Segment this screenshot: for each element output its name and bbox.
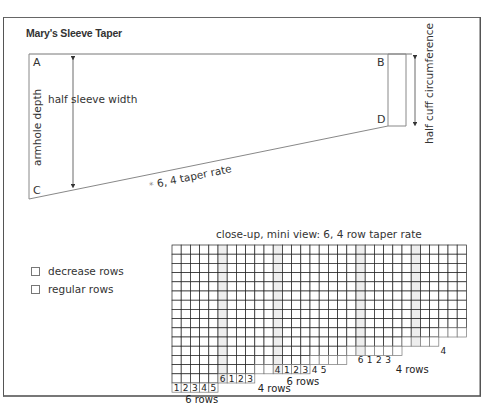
group-row-count-label: 4 rows xyxy=(396,364,429,375)
row-number: 2 xyxy=(236,375,245,384)
row-number: 3 xyxy=(301,366,310,375)
row-number: 6 xyxy=(218,375,227,384)
row-number: 4 xyxy=(310,366,319,375)
row-number: 2 xyxy=(374,356,383,365)
group-row-count-label: 6 rows xyxy=(185,394,218,405)
row-number: 1 xyxy=(282,366,291,375)
closeup-grid xyxy=(0,0,497,414)
row-number: 4 xyxy=(439,347,448,356)
row-number: 3 xyxy=(190,384,199,393)
row-number: 2 xyxy=(292,366,301,375)
row-number: 2 xyxy=(181,384,190,393)
row-number: 4 xyxy=(273,366,282,375)
row-number: 3 xyxy=(246,375,255,384)
row-number: 5 xyxy=(209,384,218,393)
row-number: 1 xyxy=(227,375,236,384)
row-number: 1 xyxy=(172,384,181,393)
row-number: 3 xyxy=(384,356,393,365)
row-number: 6 xyxy=(356,356,365,365)
row-number: 1 xyxy=(365,356,374,365)
group-row-count-label: 6 rows xyxy=(286,376,319,387)
row-number: 5 xyxy=(319,366,328,375)
row-number: 4 xyxy=(200,384,209,393)
